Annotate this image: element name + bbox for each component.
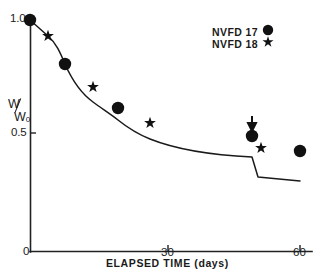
marker-star-nvfd18 xyxy=(87,81,99,92)
legend-circle-icon xyxy=(263,25,273,35)
annotation-arrow-down-icon xyxy=(248,116,256,131)
legend-entry-nvfd17: NVFD 17 xyxy=(212,26,258,38)
marker-star-nvfd18 xyxy=(255,142,267,153)
y-tick-label-mid: 0.5 xyxy=(11,127,26,139)
y-axis-title: W W0 xyxy=(8,98,34,128)
legend-star-icon xyxy=(262,36,273,46)
x-tick-label-0: 0 xyxy=(23,246,29,258)
x-axis-title: ELAPSED TIME (days) xyxy=(106,258,229,269)
marker-circle-nvfd17 xyxy=(112,102,124,114)
plot-area xyxy=(0,0,327,277)
y-axis-title-denominator: W0 xyxy=(14,111,30,124)
chart-figure: 1.0 0.5 0 30 60 W W0 ELAPSED TIME (days)… xyxy=(0,0,327,277)
marker-circle-nvfd17 xyxy=(59,58,71,70)
legend-entry-nvfd18: NVFD 18 xyxy=(212,38,258,50)
legend-label-nvfd17: NVFD 17 xyxy=(212,26,258,38)
marker-star-nvfd18 xyxy=(144,117,156,128)
x-tick-label-60: 60 xyxy=(293,247,306,259)
y-tick-label-top: 1.0 xyxy=(10,13,25,25)
legend-label-nvfd18: NVFD 18 xyxy=(212,38,258,50)
marker-circle-nvfd17 xyxy=(24,14,36,26)
data-curve xyxy=(30,20,300,181)
marker-circle-nvfd17 xyxy=(294,145,306,157)
